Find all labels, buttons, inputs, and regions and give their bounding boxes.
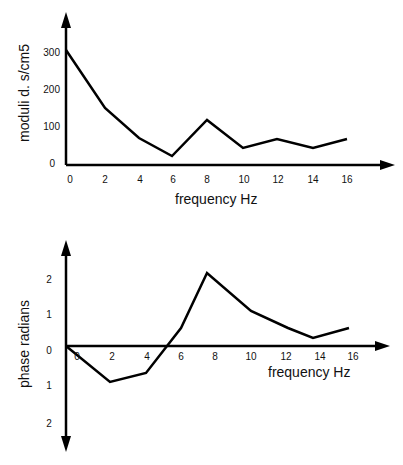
y-axis-label: moduli d. s/cm5 (16, 44, 32, 142)
svg-text:14: 14 (314, 351, 326, 362)
svg-text:8: 8 (204, 174, 210, 185)
svg-text:16: 16 (347, 351, 359, 362)
svg-text:12: 12 (280, 351, 292, 362)
svg-text:2: 2 (46, 274, 52, 285)
svg-text:0: 0 (49, 158, 55, 169)
svg-text:6: 6 (178, 351, 184, 362)
svg-text:0: 0 (74, 351, 80, 362)
svg-text:4: 4 (144, 351, 150, 362)
y-axis-label: phase radians (16, 300, 32, 388)
svg-text:8: 8 (212, 351, 218, 362)
moduli-chart: 300 200 100 0 0246810121416 frequency Hz… (16, 12, 395, 207)
y-up-arrow-icon (61, 240, 71, 256)
svg-text:1: 1 (46, 309, 52, 320)
svg-text:16: 16 (341, 174, 353, 185)
svg-text:12: 12 (272, 174, 284, 185)
svg-text:200: 200 (43, 84, 60, 95)
svg-text:10: 10 (245, 351, 257, 362)
svg-text:4: 4 (137, 174, 143, 185)
svg-text:6: 6 (170, 174, 176, 185)
y-arrow-icon (61, 12, 71, 28)
svg-text:10: 10 (238, 174, 250, 185)
svg-text:0: 0 (46, 345, 52, 356)
svg-text:1: 1 (46, 380, 52, 391)
y-down-arrow-icon (61, 436, 71, 452)
svg-text:2: 2 (109, 351, 115, 362)
svg-text:14: 14 (307, 174, 319, 185)
chart-canvas: 300 200 100 0 0246810121416 frequency Hz… (0, 0, 403, 465)
x-arrow-icon (380, 160, 395, 170)
svg-text:0: 0 (67, 174, 73, 185)
svg-text:300: 300 (43, 47, 60, 58)
x-axis-label: frequency Hz (268, 364, 350, 380)
svg-text:2: 2 (46, 418, 52, 429)
svg-text:100: 100 (43, 121, 60, 132)
svg-text:2: 2 (102, 174, 108, 185)
x-arrow-icon (375, 341, 390, 351)
phase-chart: 2 1 0 1 2 0246810121416 frequency Hz pha… (16, 240, 390, 452)
x-axis-label: frequency Hz (175, 191, 257, 207)
